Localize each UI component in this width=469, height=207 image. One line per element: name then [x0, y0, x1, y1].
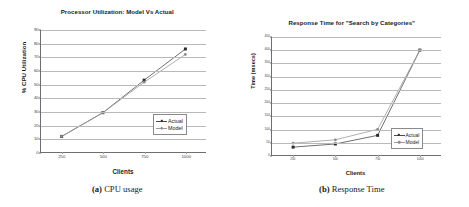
line-marker-icon: [394, 139, 405, 146]
legend-item-model[interactable]: Model: [394, 139, 420, 147]
gridline: [41, 71, 206, 72]
y-tick-mark: [39, 125, 41, 126]
y-axis-title-cpu: % CPU Utilization: [20, 23, 27, 113]
y-tick-label: 350: [264, 62, 269, 65]
y-tick-label: 0: [36, 151, 38, 155]
line-marker-icon: [394, 131, 405, 138]
y-tick-mark: [270, 37, 272, 38]
y-tick-label: 450: [264, 35, 269, 38]
y-tick-label: 60: [34, 69, 39, 73]
y-tick-label: 80: [34, 41, 39, 45]
y-tick-label: 250: [264, 88, 269, 91]
y-tick-label: 100: [264, 128, 269, 131]
legend-label-actual: Actual: [167, 118, 183, 124]
plot-area-response: 0501001502002503003504004502505007501000…: [271, 37, 441, 156]
y-tick-label: 20: [34, 123, 39, 127]
data-point-model: [143, 81, 146, 84]
x-tick-label: 250: [290, 158, 295, 161]
figure-caption-a: (a) CPU usage: [0, 184, 235, 194]
y-tick-label: 50: [266, 141, 270, 144]
x-axis-title-response: Clients: [271, 170, 441, 176]
x-tick-label: 500: [100, 155, 107, 159]
plot-area-cpu: 01020304050607080902505007501000 Actual …: [40, 30, 206, 153]
data-point-model: [184, 53, 187, 56]
legend-cpu: Actual Model: [153, 114, 187, 135]
y-tick-mark: [270, 103, 272, 104]
y-tick-label: 200: [264, 102, 269, 105]
y-tick-label: 40: [34, 96, 39, 100]
y-tick-mark: [270, 50, 272, 51]
caption-label-b: (b): [319, 184, 330, 194]
gridline: [41, 85, 206, 86]
legend-label-actual: Actual: [405, 132, 420, 138]
gridline: [272, 50, 441, 51]
y-tick-label: 50: [34, 82, 39, 86]
y-tick-mark: [270, 63, 272, 64]
legend-response: Actual Model: [391, 128, 424, 149]
gridline: [41, 30, 206, 31]
gridline: [272, 103, 441, 104]
y-tick-label: 30: [34, 110, 39, 114]
y-tick-mark: [39, 84, 41, 85]
gridline: [272, 37, 441, 38]
data-point-actual: [376, 134, 379, 137]
y-tick-mark: [39, 43, 41, 44]
x-axis-title-cpu: Clients: [40, 168, 206, 175]
y-tick-mark: [270, 76, 272, 77]
y-tick-mark: [39, 71, 41, 72]
data-point-model: [60, 135, 63, 138]
chart-title-response: Response Time for "Search by Categories": [235, 19, 469, 26]
figure-container: Processor Utilization: Model Vs Actual %…: [0, 0, 469, 207]
gridline: [272, 77, 441, 78]
y-tick-label: 400: [264, 49, 269, 52]
caption-label-a: (a): [92, 184, 102, 194]
data-point-actual: [60, 135, 63, 138]
gridline: [272, 116, 441, 117]
y-tick-mark: [270, 89, 272, 90]
y-tick-mark: [39, 139, 41, 140]
chart-panel-response-time: Response Time for "Search by Categories"…: [235, 0, 469, 207]
gridline: [41, 44, 206, 45]
data-point-actual: [184, 47, 187, 50]
x-tick-label: 250: [58, 155, 65, 159]
legend-item-model[interactable]: Model: [156, 125, 183, 133]
legend-item-actual[interactable]: Actual: [156, 117, 183, 125]
y-axis-title-response: Time (msecs): [250, 26, 256, 116]
y-tick-label: 10: [34, 137, 39, 141]
legend-item-actual[interactable]: Actual: [394, 131, 420, 139]
y-tick-mark: [39, 112, 41, 113]
line-marker-icon: [156, 117, 167, 124]
x-tick-label: 750: [141, 155, 148, 159]
x-tick-label: 1000: [181, 155, 191, 159]
x-tick-label: 500: [333, 158, 338, 161]
chart-title-cpu: Processor Utilization: Model Vs Actual: [0, 8, 235, 15]
data-point-model: [333, 138, 336, 141]
y-tick-mark: [39, 57, 41, 58]
gridline: [41, 98, 206, 99]
y-tick-mark: [39, 30, 41, 31]
gridline: [41, 57, 206, 58]
caption-text-b: Response Time: [332, 184, 385, 194]
figure-caption-b: (b) Response Time: [235, 184, 469, 194]
y-tick-label: 0: [268, 154, 270, 157]
chart-panel-cpu-usage: Processor Utilization: Model Vs Actual %…: [0, 0, 235, 207]
caption-text-a: CPU usage: [104, 184, 142, 194]
y-tick-label: 70: [34, 55, 39, 59]
y-tick-label: 90: [34, 28, 39, 32]
gridline: [41, 112, 206, 113]
y-tick-mark: [39, 153, 41, 154]
gridline: [272, 90, 441, 91]
data-point-actual: [291, 146, 294, 149]
y-tick-label: 300: [264, 75, 269, 78]
data-point-actual: [143, 79, 146, 82]
x-tick-label: 750: [375, 158, 380, 161]
line-marker-icon: [156, 125, 167, 132]
y-tick-mark: [39, 98, 41, 99]
y-tick-mark: [270, 116, 272, 117]
x-tick-label: 1000: [417, 158, 424, 161]
legend-label-model: Model: [405, 139, 420, 145]
y-tick-label: 150: [264, 115, 269, 118]
legend-label-model: Model: [167, 125, 183, 131]
y-tick-mark: [270, 129, 272, 130]
gridline: [41, 139, 206, 140]
